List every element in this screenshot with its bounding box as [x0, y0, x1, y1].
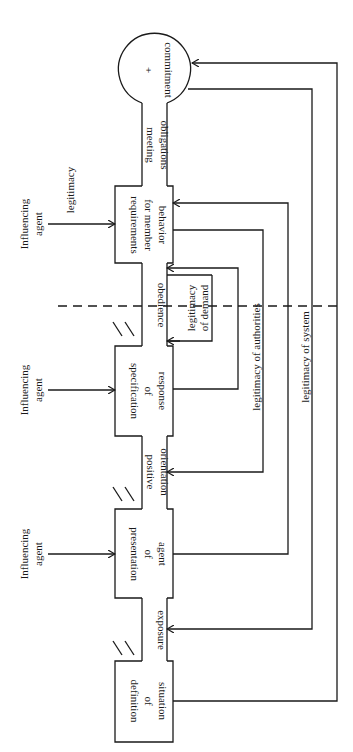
agent-3-line-1: Influencing: [18, 528, 30, 579]
influencing-agent-labels: Influencing agent legitimacy Influencing…: [18, 166, 76, 579]
requirements-line-1: requirements: [129, 196, 141, 253]
feedback-labels: legitimacy of demand legitimacy of autho…: [185, 284, 311, 411]
positive-label: positive: [145, 455, 157, 490]
legitimacy-of-system-label: legitimacy of system: [299, 311, 311, 403]
presentation-line-2: of: [143, 549, 155, 559]
agent-2-line-2: agent: [32, 378, 44, 402]
requirements-line-2: for member: [143, 199, 155, 251]
definition-line-3: situation: [157, 682, 169, 720]
definition-line-1: definition: [129, 680, 141, 723]
orientation-label: orientation: [159, 448, 171, 496]
specification-line-1: specification: [129, 363, 141, 420]
commitment-label: commitment: [163, 42, 175, 98]
agent-1-line-2: agent: [32, 212, 44, 236]
requirements-line-3: behavior: [157, 206, 169, 245]
agent-3-line-2: agent: [32, 542, 44, 566]
definition-line-2: of: [143, 696, 155, 706]
legitimacy-input-label: legitimacy: [64, 166, 76, 213]
authorities-feedback-line: [167, 230, 263, 472]
exposure-label: exposure: [156, 610, 168, 650]
presentation-line-3: agent: [157, 542, 169, 566]
legitimacy-of-authorities-label: legitimacy of authorities: [250, 303, 262, 411]
meeting-label: meeting: [145, 127, 157, 163]
legitimacy-of-demand-line-2: of demand: [198, 284, 210, 331]
presentation-line-1: presentation: [129, 527, 141, 581]
agent-2-line-1: Influencing: [18, 364, 30, 415]
legitimacy-of-demand-line-1: legitimacy: [185, 284, 197, 331]
specification-line-3: response: [157, 372, 169, 411]
system-feedback-line: [167, 89, 312, 629]
obedience-label: obedience: [156, 283, 168, 328]
obligations-label: obligations: [159, 121, 171, 170]
agent-1-line-1: Influencing: [18, 198, 30, 249]
legitimacy-flow-diagram: + commitment requirements for member beh…: [0, 0, 353, 752]
commitment-sign: +: [143, 67, 155, 73]
presentation-feedback-line: [173, 203, 288, 554]
specification-line-2: of: [143, 386, 155, 396]
